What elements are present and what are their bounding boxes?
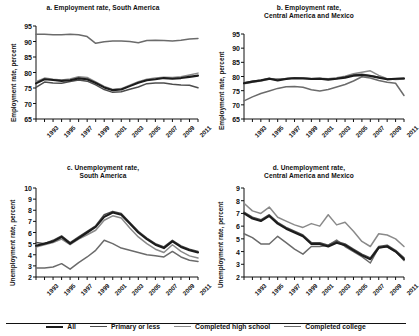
panel-a-title: a. Employment rate, South America [0,4,206,12]
x-tick-label: 2005 [354,282,369,297]
panel-a-plot [36,26,198,119]
y-tick-label: 7 [223,210,240,217]
panel-d-plot [244,188,404,277]
x-tick-label: 1999 [304,124,319,139]
y-tick-label: 65 [223,116,240,123]
x-tick-label: 2009 [181,282,196,297]
panel-c-series-completed-college [36,240,198,269]
panel-d-title: d. Unemployment rate, Central America an… [206,164,412,180]
x-tick-label: 2011 [405,124,419,138]
legend-swatch-icon [46,326,63,328]
x-tick-label: 1999 [304,282,319,297]
legend-label: Completed high school [195,323,270,330]
panel-d: d. Unemployment rate, Central America an… [206,164,412,309]
x-tick-label: 1999 [96,282,111,297]
x-tick-label: 1993 [253,282,268,297]
x-tick-label: 1995 [62,124,77,139]
panel-a-canvas [36,26,200,125]
legend-label: Completed college [305,323,365,330]
x-tick-label: 2009 [388,282,403,297]
legend-item-completed-high-school[interactable]: Completed high school [174,323,270,330]
legend-item-all[interactable]: All [46,323,76,330]
y-tick-label: 70 [15,100,32,107]
x-tick-label: 2007 [371,124,386,139]
y-tick-label: 5 [223,235,240,242]
x-tick-label: 2009 [388,124,403,139]
panel-a: a. Employment rate, South America Employ… [0,4,206,164]
y-tick-label: 8 [15,207,32,214]
y-tick-label: 6 [223,223,240,230]
x-tick-label: 2007 [164,282,179,297]
x-tick-label: 2001 [113,124,128,139]
x-tick-label: 2005 [147,124,162,139]
x-tick-label: 1997 [79,124,94,139]
x-tick-label: 2001 [320,124,335,139]
y-tick-label: 85 [223,59,240,66]
x-tick-label: 1997 [287,282,302,297]
x-tick-label: 1995 [270,124,285,139]
panel-a-axis-lines [36,26,198,119]
x-tick-label: 2003 [130,282,145,297]
x-tick-label: 2005 [354,124,369,139]
panel-b: b. Employment rate, Central America and … [206,4,412,164]
y-tick-label: 65 [15,116,32,123]
x-tick-label: 1999 [96,124,111,139]
panel-c-canvas [36,188,200,283]
y-tick-label: 9 [223,185,240,192]
panel-d-series-primary-or-less [244,212,404,258]
y-tick-label: 80 [15,69,32,76]
x-tick-label: 1993 [253,124,268,139]
y-tick-label: 6 [15,229,32,236]
y-tick-label: 70 [223,101,240,108]
legend-label: All [67,323,76,330]
y-tick-label: 4 [15,251,32,258]
figure-legend: AllPrimary or lessCompleted high schoolC… [0,323,412,330]
x-tick-label: 2003 [337,124,352,139]
y-tick-label: 75 [15,85,32,92]
y-tick-label: 10 [15,185,32,192]
legend-swatch-icon [284,326,301,327]
legend-item-primary-or-less[interactable]: Primary or less [90,323,160,330]
x-tick-label: 2009 [181,124,196,139]
y-tick-label: 3 [15,262,32,269]
legend-label: Primary or less [111,323,160,330]
panel-b-plot [244,34,404,119]
y-tick-label: 7 [15,218,32,225]
x-tick-label: 2001 [113,282,128,297]
y-tick-label: 2 [223,274,240,281]
y-tick-label: 80 [223,73,240,80]
y-tick-label: 90 [223,45,240,52]
x-tick-label: 1997 [79,282,94,297]
panel-d-axis-lines [244,188,404,277]
x-tick-label: 1993 [45,282,60,297]
legend-item-completed-college[interactable]: Completed college [284,323,365,330]
panel-b-title: b. Employment rate, Central America and … [206,4,412,20]
legend-swatch-icon [174,326,191,327]
panel-d-series-completed-high-school [244,203,404,246]
x-tick-label: 1995 [62,282,77,297]
y-tick-label: 3 [223,261,240,268]
panel-c: c. Unemployment rate, South America Unem… [0,164,206,309]
x-tick-label: 2007 [371,282,386,297]
panel-a-series-completed-college [36,34,198,43]
x-tick-label: 1997 [287,124,302,139]
y-tick-label: 5 [15,240,32,247]
panel-b-canvas [244,34,406,125]
panel-b-series-completed-college [244,77,404,101]
y-tick-label: 75 [223,87,240,94]
x-tick-label: 2001 [320,282,335,297]
x-tick-label: 1993 [45,124,60,139]
y-tick-label: 9 [15,196,32,203]
y-tick-label: 4 [223,248,240,255]
y-tick-label: 85 [15,54,32,61]
y-tick-label: 95 [15,23,32,30]
panel-c-title: c. Unemployment rate, South America [0,164,206,180]
panel-d-canvas [244,188,406,283]
legend-swatch-icon [90,326,107,327]
panel-c-plot [36,188,198,277]
x-tick-label: 2003 [337,282,352,297]
x-tick-label: 2003 [130,124,145,139]
x-tick-label: 1995 [270,282,285,297]
legend-top-rule [6,323,406,324]
